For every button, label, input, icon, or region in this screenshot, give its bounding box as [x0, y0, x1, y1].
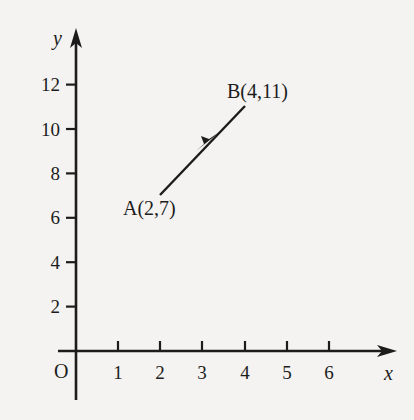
y-tick-label-4: 4 — [26, 253, 60, 272]
y-tick-label-12: 12 — [26, 75, 60, 94]
y-tick-label-6: 6 — [26, 208, 60, 227]
origin-label: O — [54, 361, 68, 381]
y-tick-label-8: 8 — [26, 164, 60, 183]
vector-diagram-figure: 2 4 6 8 10 12 1 2 3 4 5 6 O y x B(4,11) … — [0, 0, 414, 420]
x-tick-label-5: 5 — [275, 363, 299, 382]
vector-ab-shaft — [160, 106, 245, 195]
y-tick-label-2: 2 — [26, 297, 60, 316]
point-label-a: A(2,7) — [123, 198, 176, 218]
x-tick-label-6: 6 — [317, 363, 341, 382]
y-tick-label-10: 10 — [26, 120, 60, 139]
point-label-b: B(4,11) — [227, 81, 288, 101]
vector-ab-arrowhead — [196, 131, 221, 151]
x-tick-label-3: 3 — [190, 363, 214, 382]
y-axis-label: y — [53, 28, 62, 48]
x-tick-label-1: 1 — [106, 363, 130, 382]
x-tick-label-2: 2 — [148, 363, 172, 382]
x-axis-label: x — [384, 363, 393, 383]
coordinate-plane-svg — [0, 0, 414, 420]
x-tick-label-4: 4 — [233, 363, 257, 382]
